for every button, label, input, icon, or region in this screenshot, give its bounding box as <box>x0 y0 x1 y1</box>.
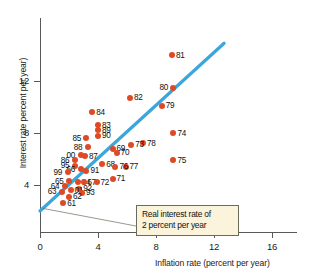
data-point-79 <box>159 103 165 109</box>
data-point-88 <box>85 144 91 150</box>
x-tick-label-16: 16 <box>262 241 282 252</box>
data-point-label-93: 93 <box>86 188 95 197</box>
data-point-82 <box>127 95 133 101</box>
x-tick-0 <box>40 232 41 238</box>
data-point-91 <box>83 168 89 174</box>
callout-line-2: 2 percent per year <box>142 220 234 231</box>
data-point-71 <box>110 176 116 182</box>
callout-leader-line <box>43 208 136 226</box>
data-point-63 <box>59 189 65 195</box>
data-point-label-84: 84 <box>96 108 105 117</box>
x-tick-4 <box>98 232 99 238</box>
data-point-label-79: 79 <box>166 101 175 110</box>
y-axis-label: Interest rate percent per year) <box>18 33 28 193</box>
x-tick-label-12: 12 <box>204 241 224 252</box>
data-point-61 <box>60 200 66 206</box>
data-point-99 <box>65 169 71 175</box>
data-point-label-90: 90 <box>102 131 111 140</box>
data-point-68 <box>99 161 105 167</box>
data-point-label-82: 82 <box>134 93 143 102</box>
data-point-label-80: 80 <box>159 83 168 92</box>
data-point-label-74: 74 <box>177 129 186 138</box>
data-point-76 <box>112 164 118 170</box>
data-point-00 <box>78 152 84 158</box>
data-point-94 <box>75 179 81 185</box>
scatter-chart: 4812 0481216 818082798483897490857873886… <box>0 0 311 279</box>
data-point-label-77: 77 <box>130 162 139 171</box>
data-point-label-73: 73 <box>135 140 144 149</box>
data-point-70 <box>114 150 120 156</box>
data-point-81 <box>169 52 175 58</box>
callout-line-1: Real interest rate of <box>142 209 234 220</box>
data-point-label-63: 63 <box>48 187 57 196</box>
data-point-74 <box>170 130 176 136</box>
data-point-75 <box>170 157 176 163</box>
data-point-label-78: 78 <box>147 139 156 148</box>
data-point-label-72: 72 <box>101 178 110 187</box>
x-tick-label-0: 0 <box>30 241 50 252</box>
data-point-label-61: 61 <box>67 199 76 208</box>
data-point-label-75: 75 <box>177 156 186 165</box>
data-point-85 <box>83 135 89 141</box>
data-point-label-81: 81 <box>176 51 185 60</box>
data-point-84 <box>89 109 95 115</box>
callout-box: Real interest rate of 2 percent per year <box>136 205 239 236</box>
y-tick-4 <box>34 185 40 186</box>
data-point-label-87: 87 <box>89 152 98 161</box>
y-axis-line <box>40 18 41 233</box>
data-point-label-99: 99 <box>54 168 63 177</box>
x-tick-label-4: 4 <box>88 241 108 252</box>
data-point-label-70: 70 <box>121 148 130 157</box>
data-point-72 <box>94 179 100 185</box>
data-point-90 <box>95 133 101 139</box>
x-tick-label-8: 8 <box>146 241 166 252</box>
x-tick-16 <box>272 232 273 238</box>
data-point-label-91: 91 <box>90 166 99 175</box>
y-tick-8 <box>34 133 40 134</box>
data-point-label-76: 76 <box>119 162 128 171</box>
x-axis-label: Inflation rate (percent per year) <box>155 258 305 268</box>
data-point-80 <box>170 85 176 91</box>
data-point-73 <box>128 142 134 148</box>
data-point-label-85: 85 <box>72 134 81 143</box>
data-point-label-71: 71 <box>117 174 126 183</box>
y-tick-12 <box>34 81 40 82</box>
